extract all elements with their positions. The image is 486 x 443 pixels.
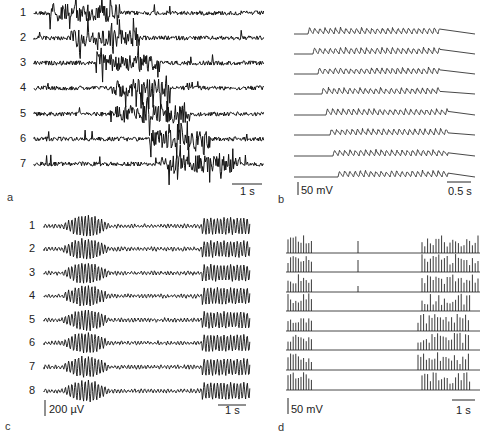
panel-d-spikes bbox=[288, 274, 478, 292]
panel-b-voltage-scale-label: 50 mV bbox=[301, 184, 333, 196]
panel-a-trace-number: 7 bbox=[20, 157, 26, 169]
panel-c-trace-number: 6 bbox=[29, 336, 35, 348]
panel-a-time-scale-label: 1 s bbox=[240, 185, 255, 197]
panel-c-trace-number: 5 bbox=[29, 313, 35, 325]
panel-c-trace-number: 7 bbox=[29, 360, 35, 372]
panel-c-trace bbox=[44, 215, 250, 236]
panel-a-trace bbox=[34, 0, 264, 29]
panel-c-trace bbox=[44, 238, 250, 259]
panel-c-trace bbox=[44, 356, 250, 377]
panel-d-spikes bbox=[288, 333, 468, 350]
panel-a: 1234567 1 s a bbox=[0, 0, 270, 210]
panel-d-spikes bbox=[288, 372, 470, 390]
panel-c-trace bbox=[44, 380, 250, 402]
panel-c: 12345678 200 µV 1 s c bbox=[0, 210, 270, 443]
panel-d-spikes bbox=[288, 254, 478, 272]
panel-b-label: b bbox=[278, 193, 284, 205]
panel-b-trace bbox=[294, 27, 475, 34]
panel-b-time-scale-label: 0.5 s bbox=[448, 185, 472, 197]
panel-a-trace bbox=[34, 145, 264, 185]
panel-d-spikes bbox=[288, 235, 478, 253]
panel-b-trace bbox=[294, 170, 475, 177]
panel-b-trace bbox=[294, 109, 475, 116]
panel-b-trace bbox=[294, 149, 475, 156]
panel-b-trace bbox=[294, 128, 475, 135]
panel-a-trace-number: 3 bbox=[20, 56, 26, 68]
panel-c-trace-number: 2 bbox=[29, 242, 35, 254]
panel-c-trace-number: 1 bbox=[29, 219, 35, 231]
panel-c-time-scale-label: 1 s bbox=[225, 404, 240, 416]
panel-c-trace bbox=[44, 286, 250, 306]
panel-c-trace-number: 8 bbox=[29, 384, 35, 396]
panel-a-trace-number: 2 bbox=[20, 31, 26, 43]
panel-c-trace bbox=[44, 333, 250, 353]
panel-d-spikes bbox=[288, 314, 468, 331]
panel-a-trace bbox=[34, 46, 264, 82]
panel-b: 50 mV 0.5 s b bbox=[270, 0, 486, 210]
panel-b-trace bbox=[294, 67, 475, 74]
panel-b-trace bbox=[294, 87, 475, 94]
panel-b-trace bbox=[294, 47, 475, 54]
panel-d-label: d bbox=[278, 421, 284, 433]
panel-a-trace bbox=[34, 76, 264, 110]
panel-c-trace-number: 4 bbox=[29, 289, 35, 301]
panel-d: 50 mV 1 s d bbox=[270, 210, 486, 443]
panel-d-voltage-scale-label: 50 mV bbox=[291, 403, 323, 415]
panel-a-label: a bbox=[7, 191, 13, 203]
panel-a-traces bbox=[0, 0, 270, 210]
panel-c-trace-number: 3 bbox=[29, 266, 35, 278]
panel-c-voltage-scale-label: 200 µV bbox=[49, 403, 84, 415]
panel-a-trace-number: 4 bbox=[20, 81, 26, 93]
panel-c-label: c bbox=[5, 420, 11, 432]
panel-c-trace bbox=[44, 263, 250, 283]
panel-a-trace-number: 6 bbox=[20, 132, 26, 144]
panel-a-trace bbox=[34, 18, 264, 59]
panel-d-spikes bbox=[288, 293, 470, 311]
panel-a-trace-number: 5 bbox=[20, 107, 26, 119]
panel-d-time-scale-label: 1 s bbox=[456, 404, 471, 416]
panel-a-trace-number: 1 bbox=[20, 6, 26, 18]
panel-d-spikes bbox=[288, 352, 468, 370]
panel-c-trace bbox=[44, 310, 250, 331]
panel-b-traces bbox=[270, 0, 486, 210]
